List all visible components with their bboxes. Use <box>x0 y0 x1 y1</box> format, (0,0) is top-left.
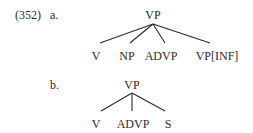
tree-b-child-v: V <box>92 118 101 130</box>
tree-b-child-advp: ADVP <box>117 118 150 130</box>
tree-b-child-s: S <box>165 118 172 130</box>
tree-b-branches <box>0 0 253 133</box>
